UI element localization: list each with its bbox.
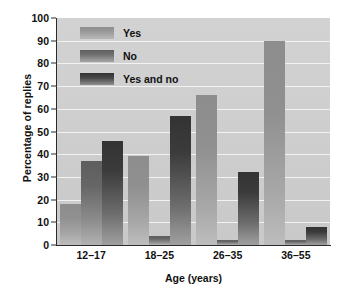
y-axis-tick-label: 50 bbox=[37, 126, 49, 138]
x-axis-tick-labels: 12–1718–2526–3536–55 bbox=[57, 249, 330, 267]
legend-swatch bbox=[80, 27, 114, 39]
y-axis-tick-labels: 0102030405060708090100 bbox=[0, 0, 57, 298]
y-axis-tick-label: 30 bbox=[37, 171, 49, 183]
bar bbox=[264, 41, 285, 245]
bar-chart: Percentage of replies 010203040506070809… bbox=[0, 0, 360, 298]
y-axis-tick-label: 80 bbox=[37, 57, 49, 69]
x-axis-tick-label: 12–17 bbox=[77, 249, 106, 261]
y-axis-tick-label: 0 bbox=[43, 239, 49, 251]
y-axis-line bbox=[56, 18, 57, 246]
x-axis-title: Age (years) bbox=[57, 272, 330, 284]
y-axis-tick-label: 100 bbox=[31, 12, 49, 24]
legend: YesNoYes and no bbox=[80, 24, 210, 93]
bar bbox=[60, 204, 81, 245]
legend-label: Yes bbox=[123, 27, 141, 39]
legend-swatch bbox=[80, 50, 114, 62]
x-axis-tick-label: 18–25 bbox=[145, 249, 174, 261]
x-axis-tick-label: 26–35 bbox=[213, 249, 242, 261]
bar bbox=[196, 95, 217, 245]
bar bbox=[170, 116, 191, 245]
bar bbox=[102, 141, 123, 245]
legend-swatch bbox=[80, 73, 114, 85]
x-axis-line bbox=[56, 245, 331, 246]
bar bbox=[306, 227, 327, 245]
y-axis-tick-label: 70 bbox=[37, 80, 49, 92]
x-axis-tick-label: 36–55 bbox=[281, 249, 310, 261]
legend-label: Yes and no bbox=[123, 73, 178, 85]
legend-item: Yes bbox=[80, 24, 210, 42]
y-axis-tick-label: 90 bbox=[37, 35, 49, 47]
bar bbox=[149, 236, 170, 245]
y-axis-tick-label: 40 bbox=[37, 148, 49, 160]
bar bbox=[81, 161, 102, 245]
y-axis-tick-label: 60 bbox=[37, 103, 49, 115]
y-axis-tick-label: 20 bbox=[37, 194, 49, 206]
bar bbox=[238, 172, 259, 245]
legend-item: Yes and no bbox=[80, 70, 210, 88]
legend-item: No bbox=[80, 47, 210, 65]
bar bbox=[128, 156, 149, 245]
y-axis-tick-label: 10 bbox=[37, 216, 49, 228]
legend-label: No bbox=[123, 50, 137, 62]
